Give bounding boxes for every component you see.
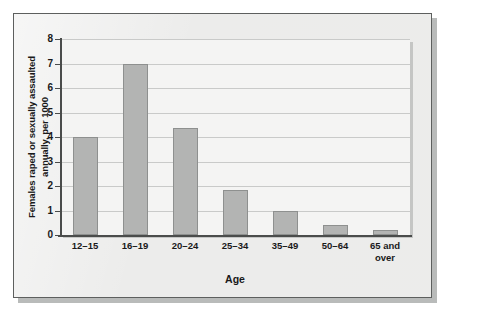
bar bbox=[173, 128, 198, 235]
gridline bbox=[60, 186, 410, 187]
gridline bbox=[60, 162, 410, 163]
y-tick-label: 7 bbox=[47, 59, 53, 69]
x-axis-title: Age bbox=[60, 273, 410, 285]
gridline bbox=[60, 64, 410, 65]
y-tick-label: 8 bbox=[47, 34, 53, 44]
y-axis-line bbox=[60, 38, 62, 236]
bar bbox=[73, 137, 98, 235]
x-tick-label: 35–49 bbox=[260, 240, 310, 252]
bar bbox=[323, 225, 348, 235]
figure-card: Females raped or sexually assaulted annu… bbox=[13, 13, 432, 298]
bar bbox=[123, 64, 148, 236]
y-tick-label: 2 bbox=[47, 181, 53, 191]
y-tick-label: 4 bbox=[47, 132, 53, 142]
gridline bbox=[60, 113, 410, 114]
y-tick-label: 6 bbox=[47, 83, 53, 93]
gridline bbox=[60, 88, 410, 89]
y-tick-label: 3 bbox=[47, 157, 53, 167]
bar bbox=[223, 190, 248, 235]
plot-area: 012345678 bbox=[60, 39, 410, 235]
bar bbox=[273, 211, 298, 236]
x-tick-label: 50–64 bbox=[310, 240, 360, 252]
x-tick-label: 65 and over bbox=[360, 240, 410, 263]
y-tick-label: 5 bbox=[47, 108, 53, 118]
x-tick-label: 16–19 bbox=[110, 240, 160, 252]
x-tick-label: 12–15 bbox=[60, 240, 110, 252]
y-tick-label: 1 bbox=[47, 206, 53, 216]
gridline bbox=[60, 137, 410, 138]
x-tick-label: 20–24 bbox=[160, 240, 210, 252]
x-tick-label: 25–34 bbox=[210, 240, 260, 252]
y-axis-title-line-1: Females raped or sexually assaulted bbox=[26, 56, 37, 218]
y-tick-label: 0 bbox=[47, 230, 53, 240]
x-axis-line bbox=[58, 235, 412, 237]
gridline bbox=[60, 39, 410, 40]
